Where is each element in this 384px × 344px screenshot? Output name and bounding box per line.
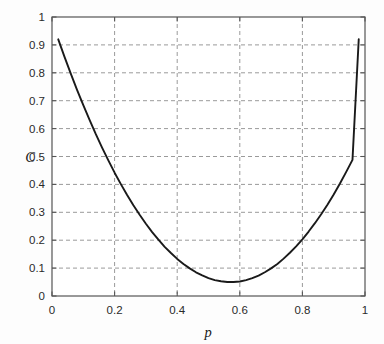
x-tick-label: 0.2 bbox=[107, 304, 123, 316]
y-tick-label: 0.3 bbox=[29, 206, 45, 218]
y-tick-label: 0.4 bbox=[29, 178, 46, 190]
y-tick-label: 0.1 bbox=[29, 262, 45, 274]
y-tick-label: 1 bbox=[39, 11, 45, 23]
x-tick-label: 0.4 bbox=[169, 304, 186, 316]
y-tick-label: 0.7 bbox=[29, 95, 45, 107]
chart-svg: 00.10.20.30.40.50.60.70.80.91 00.20.40.6… bbox=[0, 0, 384, 344]
y-tick-label: 0.6 bbox=[29, 123, 45, 135]
x-tick-label: 0.6 bbox=[232, 304, 248, 316]
y-tick-label: 0.9 bbox=[29, 39, 45, 51]
x-axis-label: p bbox=[203, 324, 211, 340]
y-tick-label: 0.8 bbox=[29, 67, 45, 79]
y-tick-label: 0.2 bbox=[29, 234, 45, 246]
chart-figure: 00.10.20.30.40.50.60.70.80.91 00.20.40.6… bbox=[0, 0, 384, 344]
x-tick-label: 0.8 bbox=[294, 304, 310, 316]
x-tick-label: 1 bbox=[362, 304, 368, 316]
x-tick-label: 0 bbox=[49, 304, 55, 316]
y-axis-label: C bbox=[25, 149, 35, 165]
y-tick-label: 0 bbox=[39, 290, 45, 302]
